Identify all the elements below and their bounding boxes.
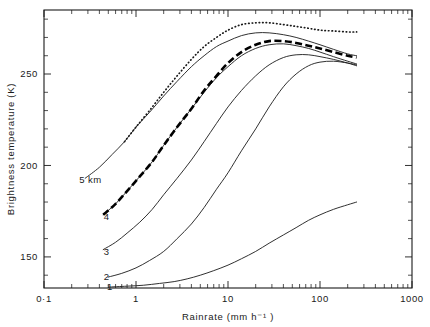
y-tick-label: 250 [20,68,38,79]
curve-1 [108,202,356,287]
x-tick-label: 1000 [400,293,424,304]
curve-dotted-upper [125,23,357,142]
x-axis-label: Rainrate (mm h⁻¹ ) [182,311,274,322]
curve-4 [103,44,356,215]
data-curves [85,23,356,288]
chart-svg: 0·11101001000 150200250 5 km4321 Rainrat… [0,0,430,327]
axes-frame [44,10,412,288]
y-tick-label: 200 [20,160,38,171]
x-tick-label: 0·1 [36,293,52,304]
y-axis-tick-labels: 150200250 [20,68,38,262]
y-tick-label: 150 [20,251,38,262]
plot-frame [44,10,412,288]
curve-label-5-km: 5 km [79,174,102,185]
x-tick-label: 10 [222,293,234,304]
curve-3 [103,55,356,250]
y-axis-label: Brightness temperature (K) [5,83,16,215]
curve-label-4: 4 [104,211,110,222]
x-axis-tick-labels: 0·11101001000 [36,293,424,304]
x-tick-label: 1 [133,293,139,304]
curve-label-1: 1 [107,281,113,292]
brightness-temperature-chart: 0·11101001000 150200250 5 km4321 Rainrat… [0,0,430,327]
x-tick-label: 100 [311,293,329,304]
y-axis-ticks [44,19,412,275]
x-axis-ticks [44,10,412,288]
curve-dashed-thick [103,41,356,215]
curve-5-km [85,33,356,179]
curve-label-3: 3 [104,246,110,257]
curve-annotations: 5 km4321 [79,174,113,291]
